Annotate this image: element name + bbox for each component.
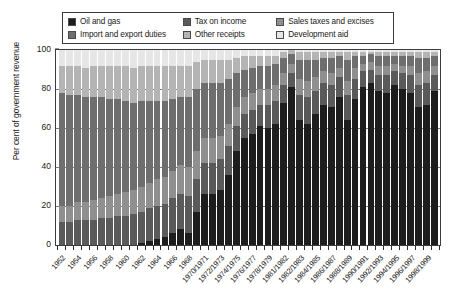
x-tick-mark	[391, 246, 392, 250]
bar-segment	[162, 177, 169, 204]
legend-item-label: Oil and gas	[80, 17, 120, 26]
bar-1960	[122, 50, 129, 245]
legend-item: Oil and gas	[68, 17, 176, 26]
x-tick-mark	[359, 246, 360, 250]
x-tick-mark	[168, 246, 169, 250]
bar-segment	[130, 103, 137, 191]
bar-segment	[257, 56, 264, 66]
x-tick-mark	[399, 246, 400, 250]
bar-segment	[201, 194, 208, 245]
bar-segment	[177, 229, 184, 245]
bar-segment	[177, 165, 184, 194]
bar-1965	[162, 50, 169, 245]
bar-segment	[106, 50, 113, 66]
bar-segment	[90, 200, 97, 220]
bar-segment	[225, 175, 232, 245]
bar-segment	[280, 85, 287, 103]
bar-1979/1980	[272, 50, 279, 245]
bar-segment	[162, 204, 169, 237]
bar-segment	[82, 220, 89, 245]
bar-segment	[98, 218, 105, 245]
bar-segment	[257, 66, 264, 89]
bar-1957	[98, 50, 105, 245]
bar-segment	[201, 163, 208, 194]
bar-segment	[368, 70, 375, 84]
bar-segment	[344, 120, 351, 245]
bar-segment	[344, 95, 351, 120]
bar-segment	[98, 198, 105, 218]
bar-segment	[138, 50, 145, 66]
bar-segment	[209, 83, 216, 138]
bar-1958	[106, 50, 113, 245]
bar-segment	[415, 58, 422, 74]
bar-segment	[114, 216, 121, 245]
bar-segment	[280, 58, 287, 74]
bar-segment	[185, 97, 192, 167]
bar-segment	[320, 105, 327, 245]
bar-1992/1993	[368, 50, 375, 245]
bar-segment	[241, 138, 248, 245]
bar-segment	[344, 60, 351, 81]
x-tick-mark	[232, 246, 233, 250]
bar-1978/1979	[265, 50, 272, 245]
bar-1982/1983	[288, 50, 295, 245]
bar-segment	[74, 95, 81, 202]
x-tick-mark	[312, 246, 313, 250]
x-tick-mark	[208, 246, 209, 250]
legend-item: Other receipts	[183, 30, 270, 39]
bar-segment	[391, 85, 398, 245]
bar-segment	[201, 50, 208, 60]
bar-segment	[233, 58, 240, 74]
bar-segment	[383, 93, 390, 245]
x-tick-mark	[328, 246, 329, 250]
bar-segment	[407, 66, 414, 76]
bar-segment	[328, 107, 335, 245]
bar-segment	[90, 66, 97, 97]
bar-segment	[59, 66, 66, 93]
bar-segment	[312, 77, 319, 91]
bar-segment	[225, 60, 232, 80]
bar-segment	[233, 126, 240, 151]
bar-1963	[146, 50, 153, 245]
y-tick-label: 20	[25, 200, 51, 210]
bar-segment	[328, 73, 335, 85]
bar-segment	[122, 101, 129, 193]
bar-segment	[233, 107, 240, 127]
bar-segment	[138, 212, 145, 243]
bar-segment	[209, 50, 216, 60]
x-tick-mark	[192, 246, 193, 250]
x-tick-mark	[121, 246, 122, 250]
bar-1989/1990	[344, 50, 351, 245]
bar-segment	[383, 56, 390, 66]
x-tick-mark	[304, 246, 305, 250]
bar-segment	[106, 66, 113, 99]
bar-segment	[169, 233, 176, 245]
bar-segment	[162, 101, 169, 177]
legend-swatch-icon	[276, 18, 284, 26]
bar-1968	[185, 50, 192, 245]
x-tick-mark	[145, 246, 146, 250]
bar-segment	[114, 66, 121, 99]
bar-segment	[352, 79, 359, 99]
bar-segment	[201, 83, 208, 138]
legend-item-label: Other receipts	[195, 30, 245, 39]
bar-segment	[82, 97, 89, 202]
bar-segment	[59, 50, 66, 66]
bar-segment	[288, 73, 295, 87]
bar-1956	[90, 50, 97, 245]
bar-segment	[201, 138, 208, 163]
bar-segment	[431, 56, 438, 66]
bar-segment	[320, 83, 327, 104]
bar-segment	[320, 58, 327, 72]
bar-segment	[304, 60, 311, 81]
x-tick-mark	[216, 246, 217, 250]
bar-segment	[74, 202, 81, 220]
bar-segment	[265, 89, 272, 105]
bar-segment	[407, 93, 414, 245]
bar-segment	[90, 50, 97, 66]
bar-segment	[66, 66, 73, 95]
bar-segment	[74, 220, 81, 245]
bar-segment	[312, 52, 319, 60]
bar-segment	[415, 107, 422, 245]
bar-segment	[66, 95, 73, 206]
